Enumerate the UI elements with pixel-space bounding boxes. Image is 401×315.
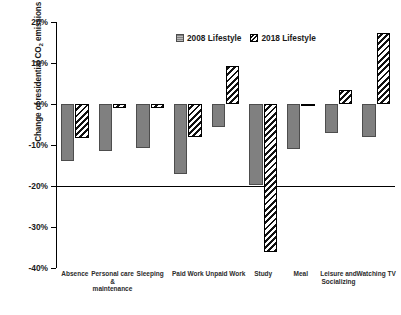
bar-2018 — [301, 104, 315, 106]
x-axis-label-line: Socializing — [312, 278, 366, 286]
bar-2018 — [113, 104, 127, 108]
figure-caption — [6, 306, 396, 315]
x-axis-labels: AbsencePersonal care&maintenanceSleeping… — [56, 268, 395, 304]
y-axis-tick-label: -30% — [4, 222, 48, 232]
y-axis-tick-label: 0% — [4, 99, 48, 109]
bar-2008 — [99, 104, 113, 151]
y-axis-tick-label: 10% — [4, 58, 48, 68]
bar-2008 — [362, 104, 376, 137]
y-axis-tick-label: 20% — [4, 17, 48, 27]
x-axis-label-line: & — [86, 278, 140, 286]
x-axis-label-line: Watching TV — [349, 270, 401, 278]
figure-container: Change of residential CO2 emissions (%) … — [0, 0, 401, 315]
bar-2018 — [188, 104, 202, 137]
x-axis-category-label: Watching TV — [349, 270, 401, 278]
plot-area: 20%10%0%-10%-20%-30%-40% — [56, 22, 395, 268]
bar-2008 — [287, 104, 301, 149]
bar-2008 — [61, 104, 75, 161]
y-axis-title-subscript: 2 — [36, 43, 43, 46]
bar-2018 — [377, 33, 391, 104]
x-axis-label-line: maintenance — [86, 285, 140, 293]
bar-2008 — [249, 104, 263, 185]
bar-series-container — [56, 22, 395, 268]
bar-2018 — [75, 104, 89, 138]
bar-2008 — [136, 104, 150, 148]
bar-2018 — [226, 66, 240, 104]
y-axis-tick-label: -40% — [4, 263, 48, 273]
y-axis-tick-label: -20% — [4, 181, 48, 191]
bar-2018 — [264, 104, 278, 252]
bar-2018 — [339, 90, 353, 104]
bar-2008 — [325, 104, 339, 133]
bar-2008 — [212, 104, 226, 127]
bar-2018 — [151, 104, 165, 108]
y-axis-tick-label: -10% — [4, 140, 48, 150]
bar-2008 — [174, 104, 188, 174]
